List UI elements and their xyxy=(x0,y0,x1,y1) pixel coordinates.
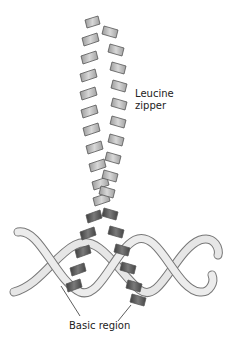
leader-line-right xyxy=(118,305,131,321)
label-zipper: zipper xyxy=(135,100,166,112)
dna-double-helix xyxy=(14,232,218,293)
leucine-zipper-diagram xyxy=(0,0,234,342)
label-basic-region: Basic region xyxy=(69,320,130,332)
label-leucine: Leucine xyxy=(135,88,174,100)
